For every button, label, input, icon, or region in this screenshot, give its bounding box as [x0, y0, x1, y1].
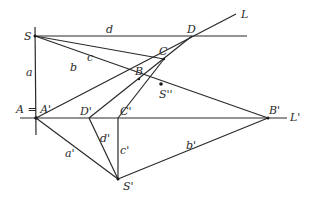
label-C-prime: C' — [120, 105, 131, 118]
label-L: L — [240, 8, 248, 21]
point-C — [163, 58, 165, 60]
label-D-prime: D' — [79, 105, 92, 118]
label-d: d — [106, 23, 113, 36]
label-d-prime: d' — [100, 132, 110, 145]
line-a-prime — [36, 118, 118, 179]
point-S-double-prime — [159, 82, 163, 86]
label-b-prime: b' — [186, 139, 196, 152]
point-B — [138, 78, 140, 80]
label-S-prime: S' — [123, 180, 134, 193]
perspective-diagram: S A = A' B C D S'' D' C' B' S' L L' a b … — [0, 0, 315, 199]
label-b: b — [70, 61, 77, 74]
label-c-prime: c' — [120, 144, 129, 157]
label-a: a — [26, 66, 33, 79]
point-S — [34, 35, 37, 38]
line-b — [35, 36, 268, 118]
label-A-eq-A-prime: A = A' — [15, 103, 51, 116]
label-B-prime: B' — [268, 104, 280, 117]
point-A — [34, 116, 38, 120]
line-c — [35, 36, 164, 59]
label-B: B — [134, 65, 143, 78]
label-L-prime: L' — [289, 111, 300, 124]
label-a-prime: a' — [65, 147, 75, 160]
label-D: D — [186, 23, 196, 36]
point-S-prime — [117, 178, 120, 181]
label-S: S — [24, 30, 32, 43]
line-d-prime — [89, 118, 118, 179]
label-S-double-prime: S'' — [159, 88, 173, 101]
label-c: c — [87, 51, 93, 64]
label-C: C — [159, 45, 168, 58]
